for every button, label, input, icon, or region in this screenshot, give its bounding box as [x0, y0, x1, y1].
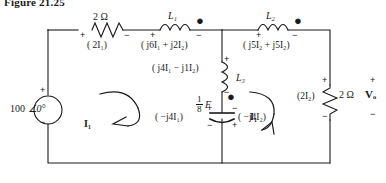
output-voltage-label: Vₒ: [365, 89, 376, 100]
inductor-L2-minus: −: [292, 31, 297, 40]
mesh-current-arrow-left: [100, 92, 138, 108]
inductor-L3-minus: −: [224, 88, 229, 97]
circuit-diagram-figure: Figure 21.25: [0, 0, 386, 183]
dot-marker-L1: ●: [196, 14, 204, 27]
resistor-top-value: 2 Ω: [93, 12, 108, 22]
capacitor-value-denominator: 8: [196, 105, 203, 114]
resistor-right-minus: −: [322, 112, 327, 121]
inductor-L1-drop: ( j6I₁ + j2I₂): [141, 41, 188, 51]
mesh-current-left-label: I₁: [84, 119, 91, 129]
resistor-2ohm-symbol: [92, 23, 123, 37]
resistor-right-plus: +: [322, 76, 327, 85]
capacitor-drop-left: ( −j4I₁): [155, 113, 183, 123]
capacitor-right-minus: −: [232, 104, 237, 113]
resistor-top-minus: −: [124, 31, 129, 40]
inductor-L1-symbol: [160, 25, 190, 31]
inductor-L1-minus: −: [196, 31, 201, 40]
circuit-schematic-canvas: [0, 0, 386, 183]
resistor-right-drop: (2I₂): [297, 92, 315, 102]
resistor-top-drop: ( 2I₁): [87, 41, 107, 51]
capacitor-right-plus: +: [232, 121, 237, 130]
inductor-L1-plus: +: [150, 31, 155, 40]
mesh-arrow-head-right: [262, 122, 274, 134]
inductor-L2-plus: +: [256, 31, 261, 40]
inductor-L1-name: L₁: [168, 11, 177, 21]
inductor-L2-name: L₂: [266, 11, 275, 21]
source-minus-sign: −: [40, 118, 45, 127]
inductor-L2-symbol: [258, 25, 288, 31]
resistor-top-plus: +: [80, 31, 85, 40]
mesh-current-right-label: I₁: [250, 112, 257, 122]
output-plus-sign: +: [370, 76, 375, 85]
capacitor-left-minus: −: [207, 121, 212, 130]
inductor-L3-drop: ( j4I₁ − j1I₂): [152, 64, 199, 74]
dot-marker-L2: ●: [294, 14, 302, 27]
inductor-L2-drop: ( j5I₂ + j5I₂): [243, 41, 290, 51]
inductor-L3-plus: +: [224, 55, 229, 64]
inductor-L3-name: L₃: [236, 73, 245, 83]
source-plus-sign: +: [40, 86, 45, 95]
capacitor-left-plus: +: [207, 104, 212, 113]
source-value-label: 100 ∠0°: [10, 104, 46, 114]
resistor-right-value: 2 Ω: [339, 90, 354, 100]
wire-bottom: [48, 124, 330, 163]
mesh-arrow-head-left: [113, 117, 128, 126]
output-minus-sign: −: [370, 110, 375, 119]
